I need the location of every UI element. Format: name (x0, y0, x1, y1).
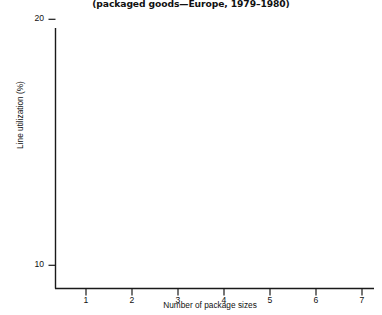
y-axis-title: Line utilization (%) (15, 45, 25, 185)
x-axis-tick-label: 7 (352, 296, 372, 305)
x-axis-tick-label: 6 (306, 296, 326, 305)
x-axis-tick-label: 2 (122, 296, 142, 305)
x-axis-tick-label: 5 (260, 296, 280, 305)
chart-figure: (packaged goods—Europe, 1979–1980) Line … (0, 0, 382, 315)
y-axis-ticks (49, 0, 56, 265)
x-axis-tick-label: 3 (168, 296, 188, 305)
y-axis-tick-label: 20 (14, 14, 44, 23)
axes-layer (0, 0, 382, 315)
x-axis-tick-label: 1 (76, 296, 96, 305)
y-axis-tick-label: 10 (14, 260, 44, 269)
x-axis-tick-label: 4 (214, 296, 234, 305)
chart-subtitle: (packaged goods—Europe, 1979–1980) (0, 0, 382, 9)
axis-lines (55, 28, 374, 289)
data-layer (0, 0, 382, 315)
